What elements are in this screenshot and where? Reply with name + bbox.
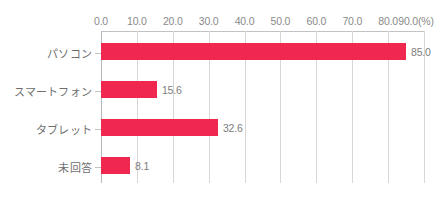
bar-2 bbox=[101, 81, 157, 98]
x-axis-tick-60-0: 60.0 bbox=[307, 15, 327, 27]
bar-1 bbox=[101, 43, 406, 60]
x-axis-tick-70-0: 70.0 bbox=[342, 15, 362, 27]
x-axis-tick-80-0: 80.0 bbox=[378, 15, 398, 27]
bar-value-label: 15.6 bbox=[157, 84, 182, 96]
bar-value-label: 85.0 bbox=[406, 46, 431, 58]
bar-value-label: 32.6 bbox=[218, 122, 243, 134]
bar-row: 15.6 bbox=[101, 81, 424, 98]
plot-area: 85.015.632.68.1 bbox=[101, 31, 424, 183]
clipped-caption bbox=[0, 188, 446, 197]
x-axis-tick-0-0: 0.0 bbox=[94, 15, 108, 27]
axis-unit-label: (%) bbox=[418, 15, 434, 27]
category-label-2: スマートフォン bbox=[14, 83, 92, 99]
category-label-1: パソコン bbox=[47, 45, 92, 61]
x-axis-tick-10-0: 10.0 bbox=[127, 15, 147, 27]
bar-row: 32.6 bbox=[101, 119, 424, 136]
category-label-3: タブレット bbox=[36, 121, 92, 137]
bar-row: 8.1 bbox=[101, 157, 424, 174]
x-axis-tick-20-0: 20.0 bbox=[163, 15, 183, 27]
bar-row: 85.0 bbox=[101, 43, 424, 60]
x-axis-tick-90-0: 90.0(%) bbox=[398, 15, 433, 27]
bar-4 bbox=[101, 157, 130, 174]
bar-3 bbox=[101, 119, 218, 136]
bar-chart: 0.010.020.030.040.050.060.070.080.090.0(… bbox=[0, 0, 446, 197]
x-axis-tick-50-0: 50.0 bbox=[271, 15, 291, 27]
x-axis-tick-30-0: 30.0 bbox=[199, 15, 219, 27]
category-label-4: 未回答 bbox=[58, 159, 92, 175]
x-axis-tick-40-0: 40.0 bbox=[235, 15, 255, 27]
bar-value-label: 8.1 bbox=[130, 160, 149, 172]
